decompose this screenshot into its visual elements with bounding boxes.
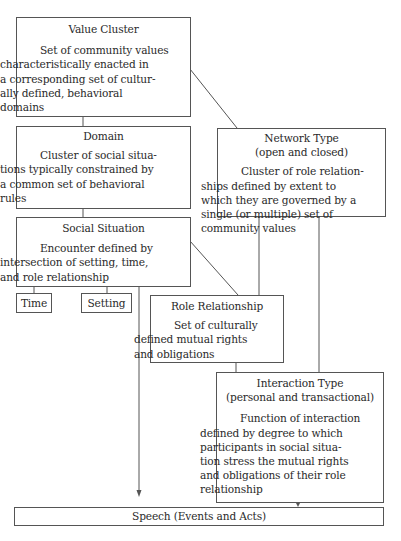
- node-title: Role Relationship: [151, 299, 283, 313]
- node-social-situation: Social Situation Encounter defined by in…: [16, 217, 191, 287]
- node-title: Interaction Type: [217, 376, 383, 390]
- node-title: Network Type: [218, 131, 385, 145]
- node-description: Cluster of role relation- ships defined …: [218, 164, 385, 235]
- edge-value-cluster-network-type: [190, 69, 237, 128]
- node-setting: Setting: [81, 293, 132, 313]
- node-description: Encounter defined by intersection of set…: [17, 241, 190, 284]
- node-subtitle: (open and closed): [218, 145, 385, 159]
- arrowhead-icon: [137, 490, 142, 497]
- node-description: Set of community values characteristical…: [17, 43, 190, 114]
- node-subtitle: (personal and transactional): [217, 390, 383, 404]
- node-description: Set of culturally defined mutual rights …: [151, 318, 283, 361]
- node-description: Function of interaction defined by degre…: [217, 411, 383, 496]
- node-title: Value Cluster: [17, 22, 190, 36]
- node-title: Social Situation: [17, 221, 190, 235]
- node-role-relationship: Role Relationship Set of culturally defi…: [150, 295, 284, 363]
- node-time: Time: [16, 293, 52, 313]
- node-speech: Speech (Events and Acts): [14, 507, 384, 526]
- node-title: Domain: [17, 129, 190, 143]
- node-domain: Domain Cluster of social situa- tions ty…: [16, 126, 191, 209]
- node-description: Cluster of social situa- tions typically…: [17, 148, 190, 205]
- node-network-type: Network Type (open and closed) Cluster o…: [217, 128, 386, 217]
- node-interaction-type: Interaction Type (personal and transacti…: [216, 372, 384, 503]
- node-value-cluster: Value Cluster Set of community values ch…: [16, 17, 191, 117]
- edge-social-situation-role-relationship: [190, 241, 238, 295]
